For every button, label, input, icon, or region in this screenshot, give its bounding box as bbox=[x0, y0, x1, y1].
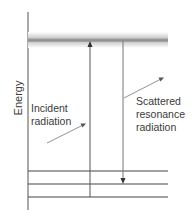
energy-axis-label: Energy bbox=[12, 78, 24, 118]
scattered-arrowhead bbox=[121, 178, 126, 184]
scattered-radiation-label: Scattered resonance radiation bbox=[136, 95, 185, 134]
incident-radiation-label: Incident radiation bbox=[31, 102, 71, 128]
excited-state-band bbox=[28, 32, 168, 48]
